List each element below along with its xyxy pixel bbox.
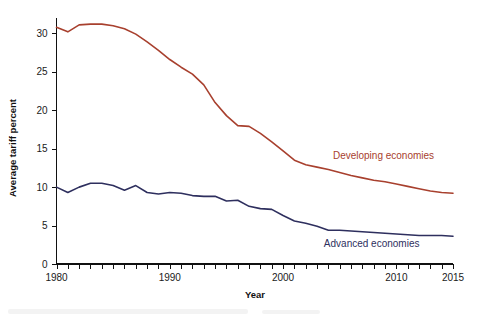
y-tick-label: 0	[42, 259, 48, 270]
y-tick-label: 15	[36, 143, 48, 154]
y-axis-title: Average tariff percent	[7, 98, 18, 197]
series-line-advanced-economies	[57, 183, 454, 236]
series-label-developing-economies: Developing economies	[333, 150, 434, 161]
y-tick-label: 25	[36, 66, 48, 77]
x-tick-label-group: 19801990200020102015	[45, 272, 464, 283]
x-tick-label: 2000	[272, 272, 295, 283]
x-tick-label: 2010	[385, 272, 408, 283]
y-tick-group	[52, 34, 57, 265]
x-tick-label: 2015	[442, 272, 465, 283]
series-line-developing-economies	[57, 24, 454, 193]
y-tick-label: 10	[36, 182, 48, 193]
series-label-group: Developing economiesAdvanced economies	[324, 150, 434, 249]
chart-canvas: 051015202530 19801990200020102015 Develo…	[0, 0, 482, 318]
y-tick-label: 30	[36, 28, 48, 39]
series-group	[57, 24, 454, 236]
axes-group	[57, 18, 454, 264]
series-label-advanced-economies: Advanced economies	[324, 238, 420, 249]
y-tick-label: 5	[42, 220, 48, 231]
y-tick-label: 20	[36, 105, 48, 116]
x-tick-group	[58, 264, 454, 269]
tariff-line-chart: 051015202530 19801990200020102015 Develo…	[0, 0, 482, 318]
scan-artifact-2	[262, 310, 320, 314]
y-tick-label-group: 051015202530	[36, 28, 48, 270]
x-tick-label: 1980	[45, 272, 68, 283]
x-tick-label: 1990	[159, 272, 182, 283]
scan-artifact-1	[8, 309, 248, 314]
x-axis-title: Year	[245, 289, 265, 300]
